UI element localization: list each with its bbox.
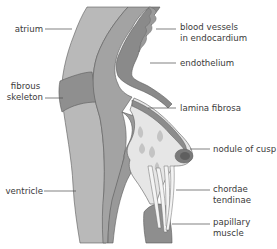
label-blood-vessels: blood vessels in endocardium: [180, 22, 247, 43]
label-ventricle: ventricle: [5, 186, 43, 196]
label-fibrous-skeleton: fibrous skeleton: [7, 81, 43, 102]
label-chordae-tendinae: chordae tendinae: [213, 184, 251, 205]
heart-valve-diagram: atrium fibrous skeleton ventricle blood …: [0, 0, 277, 249]
label-atrium: atrium: [15, 24, 43, 34]
label-endothelium: endothelium: [180, 58, 234, 68]
nodule-core: [180, 152, 190, 160]
label-papillary-muscle: papillary muscle: [213, 217, 253, 238]
label-nodule-of-cusp: nodule of cusp: [213, 144, 276, 154]
label-lamina-fibrosa: lamina fibrosa: [180, 103, 241, 113]
